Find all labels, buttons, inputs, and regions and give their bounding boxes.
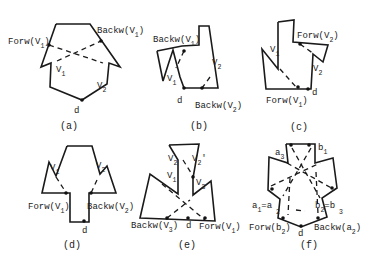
vertex-label: V2 [97,81,106,94]
dashed-diagonal [296,210,305,211]
vertex-label: Backw(V1) [153,35,200,48]
vertex-dot [64,191,68,195]
panel-caption: (a) [60,121,78,132]
vertex-label: V3 [196,178,205,191]
dashed-diagonal [167,200,190,218]
panel-c: Forw(V2)V1V2dForw(V1)(c) [262,20,339,133]
panel-a: Forw(V1)Backw(V1)V1V2d(a) [8,24,144,132]
vertex-label: Forw(V1) [266,96,308,109]
panel-b: Backw(V1)V1V2dBackw(V2)(b) [153,26,242,132]
vertex-label: V2 [96,161,105,174]
vertex-label: Backw(V1) [97,26,144,39]
vertex-label: Backw(V3) [131,221,178,234]
dashed-diagonal [287,163,335,190]
vertex-label: d [74,106,79,116]
panel-caption: (c) [290,122,308,133]
vertex-dot [99,39,103,43]
vertex-label: V1 [167,171,176,184]
vertex-label: V1 [56,65,65,78]
vertex-label: d [186,221,191,231]
panel-caption: (e) [178,240,196,251]
vertex-label: d [82,226,87,236]
vertex-label: d [298,229,303,239]
vertex-dot [289,143,293,147]
vertex-label: d [312,88,317,98]
vertex-dot [191,175,195,179]
vertex-dot [281,216,285,220]
vertex-label: Forw(V1) [199,222,241,235]
vertex-label: a1=a [252,201,273,214]
vertex-dot [330,186,334,190]
vertex-label: Backw(a2) [314,223,361,236]
vertex-dot [316,216,320,220]
vertex-dot [270,187,274,191]
dashed-diagonal [202,77,210,88]
vertex-label: V2' [192,154,207,167]
vertex-dot [165,216,169,220]
vertex-label: Forw(b2) [249,223,291,236]
vertex-label: V2 [212,58,221,71]
panel-d: V1V2Forw(V1)Backw(V2)d(d) [28,146,134,251]
vertex-dot [203,216,207,220]
dashed-diagonal [57,41,101,61]
vertex-label: Forw(V2) [297,31,339,44]
dashed-diagonal [288,178,290,215]
vertex-dot [306,87,310,91]
panel-e: V2V2'V1V3Backw(V3)dForw(V1)(e) [131,144,241,251]
vertex-label: V1 [50,163,59,176]
vertex-dot [89,191,93,195]
vertex-dot [182,86,186,90]
vertex-dot [200,86,204,90]
vertex-label: Forw(V1) [8,37,50,50]
vertex-dot [307,143,311,147]
vertex-dot [82,219,86,223]
vertex-label: V2 [313,64,322,77]
polygon-figure: Forw(V1)Backw(V1)V1V2d(a)Backw(V1)V1V2dB… [0,0,375,273]
panel-caption: (d) [63,240,81,251]
subscript-label: 2 [276,209,280,216]
dashed-diagonal [91,180,97,193]
dashed-diagonal [300,44,314,54]
dashed-diagonal [271,163,320,186]
dashed-diagonal [280,69,296,87]
vertex-label: b1 [318,143,327,156]
vertex-dot [298,42,302,46]
subscript-label: 3 [339,209,343,216]
vertex-dot [182,49,186,53]
vertex-dot [299,224,303,228]
vertex-dot [80,98,84,102]
panel-f: a3b1a1=ab2=bForw(b2)dBackw(a2)23(f) [249,143,361,251]
dashed-diagonal [162,184,205,220]
vertex-label: d [177,96,182,106]
vertex-dot [186,216,190,220]
vertex-label: Forw(V1) [28,202,70,215]
vertex-label: Backw(V2) [195,101,242,114]
vertex-label: Backw(V2) [87,202,134,215]
panel-caption: (b) [190,121,208,132]
vertex-label: V1 [167,74,176,87]
vertex-dot [296,85,300,89]
panel-caption: (f) [300,240,318,251]
